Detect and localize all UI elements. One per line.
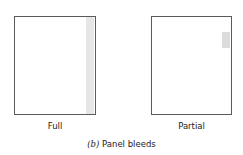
full-label: Full xyxy=(14,121,96,131)
caption-text: Panel bleeds xyxy=(102,139,156,149)
full-bleed-panel xyxy=(14,16,96,115)
full-bleed-strip xyxy=(86,17,94,114)
caption-label: (b) xyxy=(87,139,99,149)
partial-bleed-panel xyxy=(151,16,232,115)
partial-label: Partial xyxy=(151,121,232,131)
partial-bleed-strip xyxy=(222,32,230,48)
figure-caption: (b) Panel bleeds xyxy=(0,139,243,149)
